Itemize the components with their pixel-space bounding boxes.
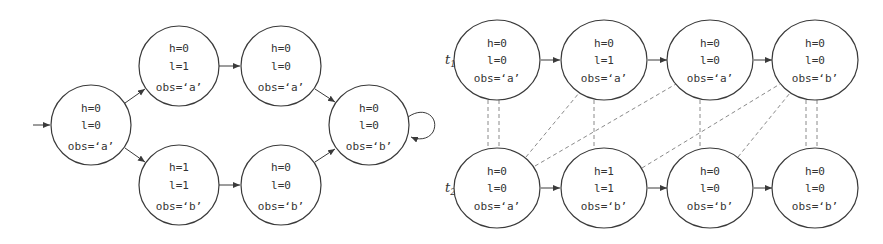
node-l: l=1 — [169, 179, 189, 192]
node-obs: obs=‘b’ — [581, 200, 627, 213]
edge-s0-s1 — [125, 89, 145, 103]
trace-t1-node-4: h=0 l=0 obs=‘b’ — [772, 20, 858, 100]
node-l: l=1 — [169, 60, 189, 73]
node-obs: obs=‘b’ — [792, 72, 838, 85]
trace-t1-node-3: h=0 l=0 obs=‘a’ — [667, 20, 753, 100]
dashed-links — [488, 84, 817, 168]
node-h: h=1 — [594, 165, 614, 178]
node-h: h=0 — [487, 37, 507, 50]
node-obs: obs=‘a’ — [581, 72, 627, 85]
link-t2c3-t1c4 — [738, 93, 790, 157]
node-l: l=0 — [805, 182, 825, 195]
node-obs: obs=‘b’ — [792, 200, 838, 213]
trace-t2-node-3: h=0 l=0 obs=‘b’ — [667, 148, 753, 228]
node-h: h=0 — [805, 37, 825, 50]
node-h: h=0 — [271, 161, 291, 174]
node-h: h=0 — [81, 102, 101, 115]
node-l: l=0 — [359, 119, 379, 132]
state-node-s3: h=1 l=1 obs=‘b’ — [139, 145, 219, 225]
trace-t2-node-4: h=0 l=0 obs=‘b’ — [772, 148, 858, 228]
state-node-s2: h=0 l=0 obs=‘a’ — [241, 26, 321, 106]
edge-s0-s3 — [125, 148, 145, 162]
trace-comparison-diagram: t1 t2 h=0 l=0 obs=‘a’ — [445, 20, 858, 228]
node-h: h=0 — [359, 102, 379, 115]
state-node-s4: h=0 l=0 obs=‘b’ — [241, 145, 321, 225]
node-l: l=0 — [81, 119, 101, 132]
edge-s2-s5 — [315, 89, 335, 102]
state-node-s0: h=0 l=0 obs=‘a’ — [51, 85, 131, 165]
node-obs: obs=‘b’ — [346, 140, 392, 153]
node-l: l=0 — [271, 179, 291, 192]
node-obs: obs=‘b’ — [156, 200, 202, 213]
node-l: l=0 — [700, 182, 720, 195]
node-obs: obs=‘a’ — [474, 72, 520, 85]
node-obs: obs=‘b’ — [687, 200, 733, 213]
node-l: l=0 — [487, 54, 507, 67]
trace-t2-node-2: h=1 l=1 obs=‘b’ — [561, 148, 647, 228]
node-obs: obs=‘a’ — [68, 140, 114, 153]
self-loop-s5 — [408, 112, 435, 139]
node-obs: obs=‘a’ — [258, 81, 304, 94]
node-h: h=0 — [169, 42, 189, 55]
node-l: l=0 — [271, 60, 291, 73]
state-machine-diagram: h=0 l=0 obs=‘a’ h=0 l=1 obs=‘a’ h=0 l=0 … — [33, 26, 435, 225]
node-l: l=1 — [594, 182, 614, 195]
diagram-canvas: h=0 l=0 obs=‘a’ h=0 l=1 obs=‘a’ h=0 l=0 … — [0, 0, 883, 244]
node-h: h=0 — [271, 42, 291, 55]
node-l: l=0 — [700, 54, 720, 67]
trace-t1-node-2: h=0 l=1 obs=‘a’ — [561, 20, 647, 100]
state-node-s1: h=0 l=1 obs=‘a’ — [139, 26, 219, 106]
node-l: l=0 — [487, 182, 507, 195]
link-t2c1-t1c2 — [526, 93, 579, 157]
trace-t2-node-1: h=0 l=0 obs=‘a’ — [454, 148, 540, 228]
node-l: l=0 — [805, 54, 825, 67]
node-obs: obs=‘a’ — [687, 72, 733, 85]
node-h: h=0 — [805, 165, 825, 178]
node-h: h=1 — [169, 161, 189, 174]
trace-t1-node-1: h=0 l=0 obs=‘a’ — [454, 20, 540, 100]
node-h: h=0 — [594, 37, 614, 50]
state-node-s5: h=0 l=0 obs=‘b’ — [329, 85, 409, 165]
node-obs: obs=‘a’ — [156, 81, 202, 94]
node-h: h=0 — [487, 165, 507, 178]
node-h: h=0 — [700, 165, 720, 178]
edge-s4-s5 — [315, 149, 335, 162]
node-obs: obs=‘b’ — [258, 200, 304, 213]
node-l: l=1 — [594, 54, 614, 67]
node-h: h=0 — [700, 37, 720, 50]
node-obs: obs=‘a’ — [474, 200, 520, 213]
